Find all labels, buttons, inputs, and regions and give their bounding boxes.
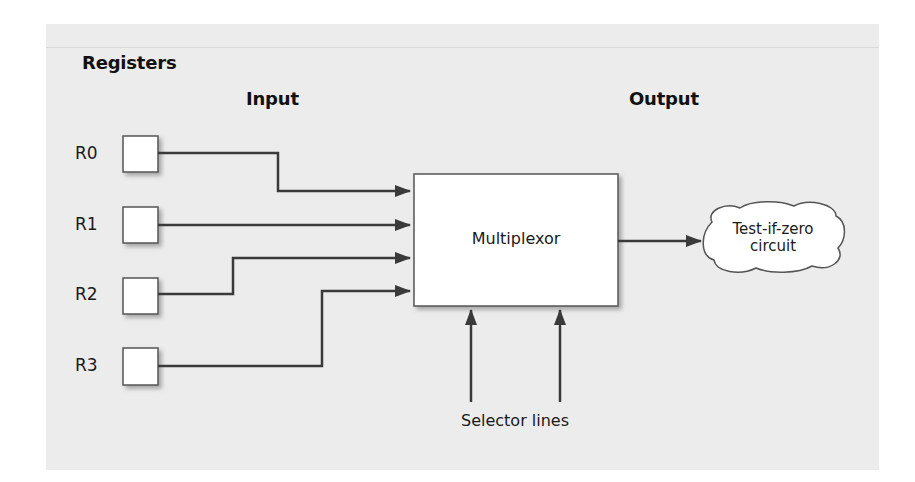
test-if-zero-label: Test-if-zero circuit (702, 221, 844, 255)
selector-lines-label: Selector lines (435, 411, 595, 430)
test-if-zero-line1: Test-if-zero (702, 221, 844, 238)
registers-heading: Registers (82, 52, 176, 73)
register-label-r0: R0 (75, 143, 98, 163)
register-box-r0 (123, 136, 158, 172)
wire-r3 (158, 291, 410, 366)
register-label-r1: R1 (75, 214, 98, 234)
wire-r0 (158, 153, 410, 191)
wire-r2 (158, 258, 410, 294)
test-if-zero-line2: circuit (702, 238, 844, 255)
register-label-r2: R2 (75, 284, 98, 304)
output-heading: Output (629, 88, 699, 109)
register-box-r3 (123, 348, 158, 385)
register-box-r1 (123, 207, 158, 243)
register-box-r2 (123, 278, 158, 314)
input-heading: Input (246, 88, 299, 109)
register-label-r3: R3 (75, 355, 98, 375)
multiplexor-label: Multiplexor (414, 229, 618, 248)
